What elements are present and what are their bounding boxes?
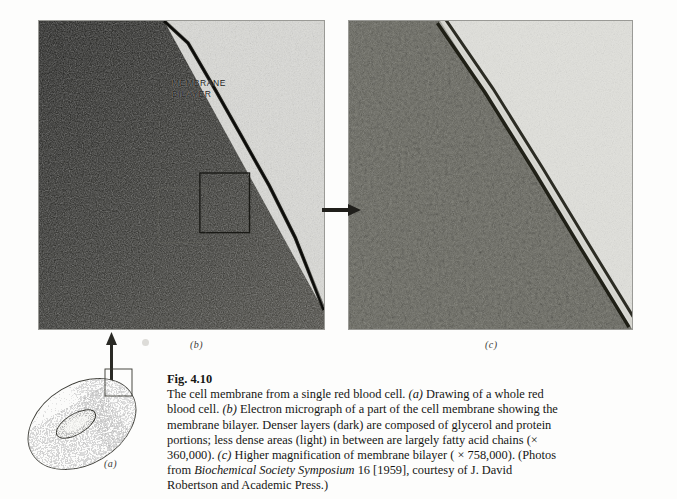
figure-number: Fig. 4.10 [167,372,559,387]
caption-segment: (a) [409,387,423,401]
panel-label-c: (c) [485,339,498,350]
figure-caption-text: The cell membrane from a single red bloo… [167,387,559,493]
scan-artifact-speck [142,339,149,346]
panel-c-micrograph [348,20,633,330]
panel-c-image [349,21,632,329]
panel-a-red-blood-cell-drawing [16,368,156,480]
figure-caption: Fig. 4.10 The cell membrane from a singl… [167,372,559,494]
caption-segment: (c) [218,448,232,462]
caption-segment: Biochemical Society Symposium [194,463,354,477]
membrane-bilayer-line1: MEMBRANE [172,78,226,88]
caption-segment: The cell membrane from a single red bloo… [167,387,409,401]
caption-segment: (b) [222,402,236,416]
membrane-bilayer-annotation: MEMBRANEBILAYER [172,78,226,100]
panel-label-b: (b) [190,339,203,350]
figure-page: MEMBRANEBILAYER [0,0,677,499]
panel-b-micrograph [38,20,325,330]
membrane-bilayer-line2: BILAYER [172,89,211,99]
arrow-panel-b-to-c-icon [322,196,362,224]
red-blood-cell-illustration [16,368,156,480]
panel-b-image [39,21,324,329]
